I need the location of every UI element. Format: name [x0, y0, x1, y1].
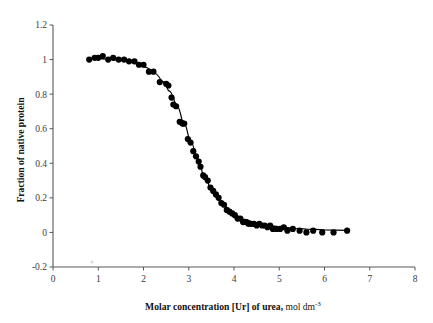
data-point — [303, 229, 309, 235]
x-tick-label: 1 — [96, 274, 101, 284]
data-point — [100, 53, 106, 59]
data-point — [86, 56, 92, 62]
y-tick-label: 0.8 — [35, 90, 47, 100]
x-tick-label: 2 — [141, 274, 146, 284]
data-point — [205, 177, 211, 183]
x-tick-label: 0 — [51, 274, 56, 284]
y-tick-label: -0.2 — [32, 262, 47, 272]
x-tick-label: 7 — [367, 274, 372, 284]
x-axis-title: Molar concentration [Ur] of urea, mol dm… — [145, 300, 321, 312]
y-tick-label: 0.6 — [35, 124, 47, 134]
scan-artifact-speck — [91, 261, 94, 264]
plot-canvas: -0.200.20.40.60.811.2012345678 Molar con… — [0, 0, 433, 323]
data-point — [140, 62, 146, 68]
data-point — [197, 164, 203, 170]
x-tick-label: 8 — [413, 274, 418, 284]
x-tick-label: 4 — [232, 274, 237, 284]
data-point — [165, 82, 171, 88]
data-point — [116, 56, 122, 62]
data-point — [344, 228, 350, 234]
x-tick-label: 6 — [322, 274, 327, 284]
data-point — [290, 226, 296, 232]
ticks-group — [50, 25, 416, 271]
data-point — [157, 79, 163, 85]
y-tick-label: 0 — [42, 228, 47, 238]
data-point — [319, 229, 325, 235]
data-point — [110, 55, 116, 61]
data-point — [168, 95, 174, 101]
y-tick-label: 0.2 — [35, 193, 47, 203]
data-point — [330, 229, 336, 235]
data-point — [126, 58, 132, 64]
y-tick-label: 0.4 — [35, 159, 47, 169]
data-point — [284, 228, 290, 234]
data-point — [297, 228, 303, 234]
sigmoid-fit-curve — [89, 59, 347, 231]
data-point — [150, 69, 156, 75]
x-tick-label: 5 — [277, 274, 282, 284]
x-tick-label: 3 — [186, 274, 191, 284]
data-point — [187, 139, 193, 145]
data-point — [310, 228, 316, 234]
y-tick-label: 1.2 — [35, 20, 47, 30]
denaturation-curve-figure: -0.200.20.40.60.811.2012345678 Molar con… — [0, 0, 433, 323]
data-point — [173, 103, 179, 109]
data-points-group — [86, 53, 350, 236]
y-tick-label: 1 — [42, 55, 47, 65]
data-point — [181, 120, 187, 126]
y-axis-title: Fraction of native protein — [15, 97, 26, 203]
